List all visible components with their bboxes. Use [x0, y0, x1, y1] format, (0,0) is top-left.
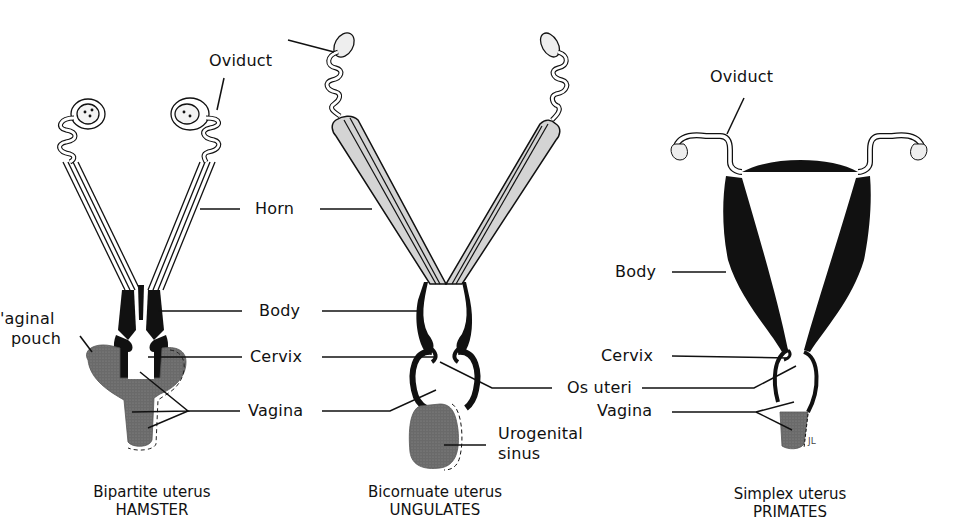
primate-left-ovary: [671, 144, 687, 160]
caption-hamster: Bipartite uterus HAMSTER: [72, 483, 232, 519]
label-body-center: Body: [259, 302, 300, 320]
label-oviduct-left: Oviduct: [209, 52, 272, 70]
label-os-uteri: Os uteri: [567, 379, 632, 397]
hamster-vagina: [87, 345, 186, 446]
label-oviduct-right: Oviduct: [710, 68, 773, 86]
caption-primates-animal: PRIMATES: [715, 503, 865, 521]
caption-hamster-type: Bipartite uterus: [72, 483, 232, 501]
hamster-right-ovary: [171, 98, 209, 130]
caption-ungulates-type: Bicornuate uterus: [345, 483, 525, 501]
caption-hamster-animal: HAMSTER: [72, 501, 232, 519]
ungulate-right-ovary: [537, 30, 564, 61]
primate-right-ovary: [911, 144, 927, 160]
label-horn: Horn: [255, 200, 294, 218]
label-cervix-right: Cervix: [601, 347, 653, 365]
label-vaginal-pouch-line2: pouch: [11, 330, 61, 348]
ungulate-uterine-body: [416, 282, 472, 352]
hamster-left-horn: [63, 162, 140, 290]
hamster-right-horn: [148, 162, 215, 290]
hamster-uterus-drawing: [60, 98, 219, 450]
caption-primates-type: Simplex uterus: [715, 485, 865, 503]
label-cervix-center: Cervix: [250, 348, 302, 366]
hamster-uterine-body: [114, 285, 168, 380]
label-urogenital-line2: sinus: [498, 445, 540, 463]
label-body-right: Body: [615, 263, 656, 281]
primate-uterine-body: [723, 176, 788, 352]
label-vaginal-pouch-line1: 'aginal: [0, 310, 55, 328]
hamster-left-ovary: [71, 99, 105, 129]
caption-ungulates: Bicornuate uterus UNGULATES: [345, 483, 525, 519]
artist-initials: JL: [808, 436, 816, 446]
primate-fundus: [742, 160, 858, 172]
caption-primates: Simplex uterus PRIMATES: [715, 485, 865, 521]
label-vagina-right: Vagina: [597, 402, 652, 420]
caption-ungulates-animal: UNGULATES: [345, 501, 525, 519]
label-urogenital-line1: Urogenital: [498, 425, 583, 443]
label-vagina-center: Vagina: [248, 402, 303, 420]
primate-vagina: [780, 412, 808, 449]
ungulate-urogenital-sinus: [409, 404, 458, 468]
primate-uterus-drawing: [671, 135, 927, 448]
ungulate-uterus-drawing: [327, 29, 567, 470]
